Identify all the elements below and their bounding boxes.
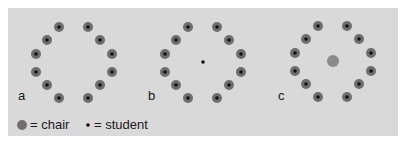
student bbox=[163, 70, 167, 74]
chair-with-student bbox=[160, 67, 170, 77]
chair-with-student bbox=[83, 93, 93, 103]
student bbox=[110, 52, 114, 56]
student bbox=[215, 96, 219, 100]
student bbox=[304, 37, 308, 41]
chair-with-student bbox=[290, 48, 300, 58]
chair-with-student bbox=[42, 35, 52, 45]
arrangement-c bbox=[290, 21, 376, 102]
chair-with-student bbox=[236, 49, 246, 59]
chair-with-student bbox=[354, 34, 364, 44]
chair-with-student bbox=[95, 35, 105, 45]
student bbox=[227, 83, 231, 87]
student bbox=[239, 52, 243, 56]
student bbox=[86, 25, 90, 29]
chair-with-student bbox=[212, 22, 222, 32]
student bbox=[293, 51, 297, 55]
chair-with-student bbox=[342, 92, 352, 102]
chair-with-student bbox=[171, 80, 181, 90]
chair-with-student bbox=[290, 66, 300, 76]
chair-with-student bbox=[31, 67, 41, 77]
student bbox=[174, 38, 178, 42]
student bbox=[98, 83, 102, 87]
chair-with-student bbox=[107, 49, 117, 59]
chair-with-student bbox=[301, 79, 311, 89]
student bbox=[345, 95, 349, 99]
chair-with-student bbox=[354, 79, 364, 89]
legend-chair-label: = chair bbox=[30, 117, 69, 132]
student bbox=[57, 25, 61, 29]
chair-with-student bbox=[171, 35, 181, 45]
center-student bbox=[201, 60, 205, 64]
student bbox=[357, 37, 361, 41]
center-chair bbox=[327, 55, 339, 67]
student bbox=[227, 38, 231, 42]
chair-with-student bbox=[313, 21, 323, 31]
chair-with-student bbox=[366, 66, 376, 76]
student bbox=[186, 25, 190, 29]
chair-with-student bbox=[107, 67, 117, 77]
student bbox=[34, 52, 38, 56]
chair-with-student bbox=[366, 48, 376, 58]
student bbox=[98, 38, 102, 42]
student bbox=[369, 69, 373, 73]
chair-with-student bbox=[301, 34, 311, 44]
chair-with-student bbox=[83, 22, 93, 32]
chair-with-student bbox=[342, 21, 352, 31]
arrangement-label-c: c bbox=[278, 88, 285, 103]
student bbox=[369, 51, 373, 55]
chair-with-student bbox=[54, 93, 64, 103]
student bbox=[45, 38, 49, 42]
student bbox=[215, 25, 219, 29]
legend-chair: = chair bbox=[16, 117, 69, 132]
legend-student-label: = student bbox=[94, 117, 148, 132]
student bbox=[316, 95, 320, 99]
student bbox=[45, 83, 49, 87]
arrangement-label-b: b bbox=[148, 88, 155, 103]
chair-with-student bbox=[313, 92, 323, 102]
chair-with-student bbox=[160, 49, 170, 59]
student bbox=[357, 82, 361, 86]
student bbox=[239, 70, 243, 74]
arrangement-b bbox=[160, 22, 246, 103]
chair-with-student bbox=[224, 80, 234, 90]
chair-with-student bbox=[224, 35, 234, 45]
student bbox=[345, 24, 349, 28]
legend-student: = student bbox=[84, 117, 148, 132]
student bbox=[174, 83, 178, 87]
student bbox=[293, 69, 297, 73]
chair-with-student bbox=[31, 49, 41, 59]
student bbox=[86, 96, 90, 100]
student bbox=[57, 96, 61, 100]
chair-with-student bbox=[95, 80, 105, 90]
arrangement-a bbox=[31, 22, 117, 103]
chair-with-student bbox=[236, 67, 246, 77]
chair-with-student bbox=[183, 93, 193, 103]
student bbox=[316, 24, 320, 28]
arrangement-label-a: a bbox=[18, 88, 25, 103]
student bbox=[110, 70, 114, 74]
chair-with-student bbox=[54, 22, 64, 32]
chair-with-student bbox=[183, 22, 193, 32]
chair-with-student bbox=[212, 93, 222, 103]
chair-icon bbox=[16, 119, 28, 131]
student bbox=[163, 52, 167, 56]
student bbox=[34, 70, 38, 74]
student bbox=[304, 82, 308, 86]
student-icon bbox=[84, 119, 92, 131]
chair-with-student bbox=[42, 80, 52, 90]
student bbox=[186, 96, 190, 100]
